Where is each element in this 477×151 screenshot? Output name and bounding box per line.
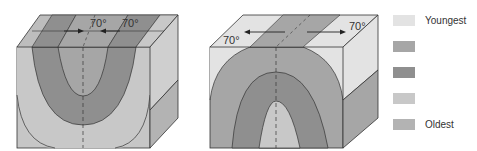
anticline-block: 70° 70° bbox=[210, 15, 378, 148]
legend-swatch bbox=[393, 41, 415, 52]
anticline-dip-left: 70° bbox=[223, 34, 240, 46]
legend-swatch bbox=[393, 67, 415, 78]
legend-swatch bbox=[393, 119, 415, 130]
legend-label: Oldest bbox=[425, 119, 454, 130]
legend-swatch bbox=[393, 93, 415, 104]
syncline-block: 70° 70° bbox=[17, 15, 178, 148]
syncline-dip-right: 70° bbox=[122, 17, 139, 29]
legend-item-3 bbox=[393, 66, 425, 78]
syncline-dip-left: 70° bbox=[90, 17, 107, 29]
legend-item-youngest: Youngest bbox=[393, 14, 466, 26]
legend-swatch bbox=[393, 15, 415, 26]
legend-item-4 bbox=[393, 92, 425, 104]
legend-item-2 bbox=[393, 40, 425, 52]
legend-label: Youngest bbox=[425, 15, 466, 26]
legend-item-oldest: Oldest bbox=[393, 118, 454, 130]
